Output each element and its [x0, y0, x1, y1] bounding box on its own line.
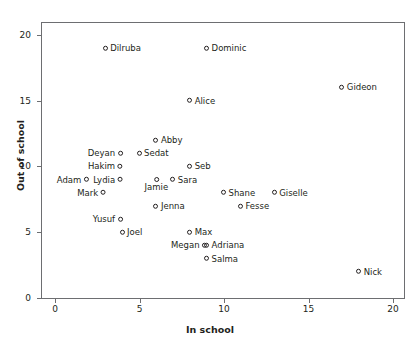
y-tick-mark — [37, 166, 41, 167]
x-tick-label: 15 — [303, 304, 314, 315]
scatter-chart: In school Out of school 0510152005101520… — [0, 0, 420, 346]
point-marker-icon — [339, 85, 344, 90]
y-tick-mark — [37, 298, 41, 299]
point-label: Nick — [364, 267, 382, 276]
point-marker-icon — [118, 164, 123, 169]
data-point[interactable]: Sedat — [137, 149, 169, 158]
point-marker-icon — [154, 177, 159, 182]
data-point[interactable]: Salma — [204, 254, 238, 263]
point-marker-icon — [204, 256, 209, 261]
point-marker-icon — [187, 164, 192, 169]
point-label: Shane — [229, 188, 256, 197]
point-marker-icon — [84, 177, 89, 182]
point-label: Adam — [57, 175, 82, 184]
point-marker-icon — [187, 98, 192, 103]
data-point[interactable]: Lydia — [93, 175, 122, 184]
y-axis-title: Out of school — [15, 86, 26, 226]
y-tick-label: 10 — [20, 161, 31, 172]
data-point[interactable]: Gideon — [339, 83, 377, 92]
x-tick-mark — [224, 299, 225, 303]
point-label: Megan — [171, 241, 200, 250]
data-point[interactable]: Alice — [187, 96, 215, 105]
point-label: Dilruba — [110, 44, 141, 53]
point-marker-icon — [170, 177, 175, 182]
point-marker-icon — [137, 151, 142, 156]
data-point[interactable]: Seb — [187, 162, 211, 171]
point-marker-icon — [153, 138, 158, 143]
data-point[interactable]: Adam — [57, 175, 89, 184]
data-point[interactable]: Max — [187, 228, 212, 237]
point-marker-icon — [204, 243, 209, 248]
data-point[interactable]: Jenna — [153, 202, 184, 211]
point-marker-icon — [120, 230, 125, 235]
point-marker-icon — [103, 45, 108, 50]
point-marker-icon — [118, 177, 123, 182]
point-label: Gideon — [347, 83, 377, 92]
data-point[interactable]: Sara — [170, 175, 197, 184]
point-label: Deyan — [88, 149, 115, 158]
point-label: Alice — [195, 96, 215, 105]
data-point[interactable]: Joel — [120, 228, 143, 237]
data-point[interactable]: Megan — [171, 241, 207, 250]
x-tick-label: 0 — [52, 304, 58, 315]
data-point[interactable]: Jamie — [145, 177, 169, 192]
y-tick-label: 0 — [25, 293, 31, 304]
point-label: Yusuf — [93, 215, 115, 224]
point-marker-icon — [238, 203, 243, 208]
point-marker-icon — [221, 190, 226, 195]
x-axis-title: In school — [0, 324, 420, 335]
point-label: Joel — [127, 228, 142, 237]
point-marker-icon — [153, 203, 158, 208]
point-label: Jamie — [145, 183, 169, 192]
point-label: Lydia — [93, 175, 115, 184]
y-tick-label: 20 — [20, 29, 31, 40]
x-tick-label: 10 — [218, 304, 229, 315]
data-point[interactable]: Abby — [153, 136, 182, 145]
point-label: Mark — [77, 188, 98, 197]
point-marker-icon — [101, 190, 106, 195]
x-tick-mark — [140, 299, 141, 303]
point-label: Abby — [161, 136, 183, 145]
point-label: Max — [195, 228, 213, 237]
point-label: Fesse — [245, 202, 269, 211]
data-point[interactable]: Adriana — [204, 241, 244, 250]
data-point[interactable]: Shane — [221, 188, 255, 197]
point-marker-icon — [356, 269, 361, 274]
point-marker-icon — [118, 151, 123, 156]
data-point[interactable]: Mark — [77, 188, 105, 197]
point-label: Dominic — [212, 44, 247, 53]
x-tick-mark — [309, 299, 310, 303]
point-label: Sara — [178, 175, 197, 184]
data-point[interactable]: Fesse — [238, 202, 269, 211]
point-label: Jenna — [161, 202, 185, 211]
y-tick-mark — [37, 232, 41, 233]
point-label: Hakim — [88, 162, 115, 171]
x-tick-mark — [55, 299, 56, 303]
point-label: Salma — [212, 254, 238, 263]
x-tick-label: 5 — [137, 304, 143, 315]
data-point[interactable]: Hakim — [88, 162, 123, 171]
point-label: Seb — [195, 162, 211, 171]
y-tick-mark — [37, 101, 41, 102]
data-point[interactable]: Giselle — [272, 188, 308, 197]
data-point[interactable]: Deyan — [88, 149, 123, 158]
y-tick-mark — [37, 35, 41, 36]
y-tick-label: 5 — [25, 227, 31, 238]
point-marker-icon — [204, 45, 209, 50]
data-point[interactable]: Yusuf — [93, 215, 123, 224]
point-label: Sedat — [144, 149, 169, 158]
data-point[interactable]: Nick — [356, 267, 382, 276]
x-tick-mark — [393, 299, 394, 303]
point-marker-icon — [272, 190, 277, 195]
point-marker-icon — [118, 217, 123, 222]
point-label: Adriana — [212, 241, 245, 250]
point-label: Giselle — [279, 188, 308, 197]
data-point[interactable]: Dilruba — [103, 44, 141, 53]
data-point[interactable]: Dominic — [204, 44, 246, 53]
x-tick-label: 20 — [387, 304, 398, 315]
y-tick-label: 15 — [20, 95, 31, 106]
point-marker-icon — [187, 230, 192, 235]
